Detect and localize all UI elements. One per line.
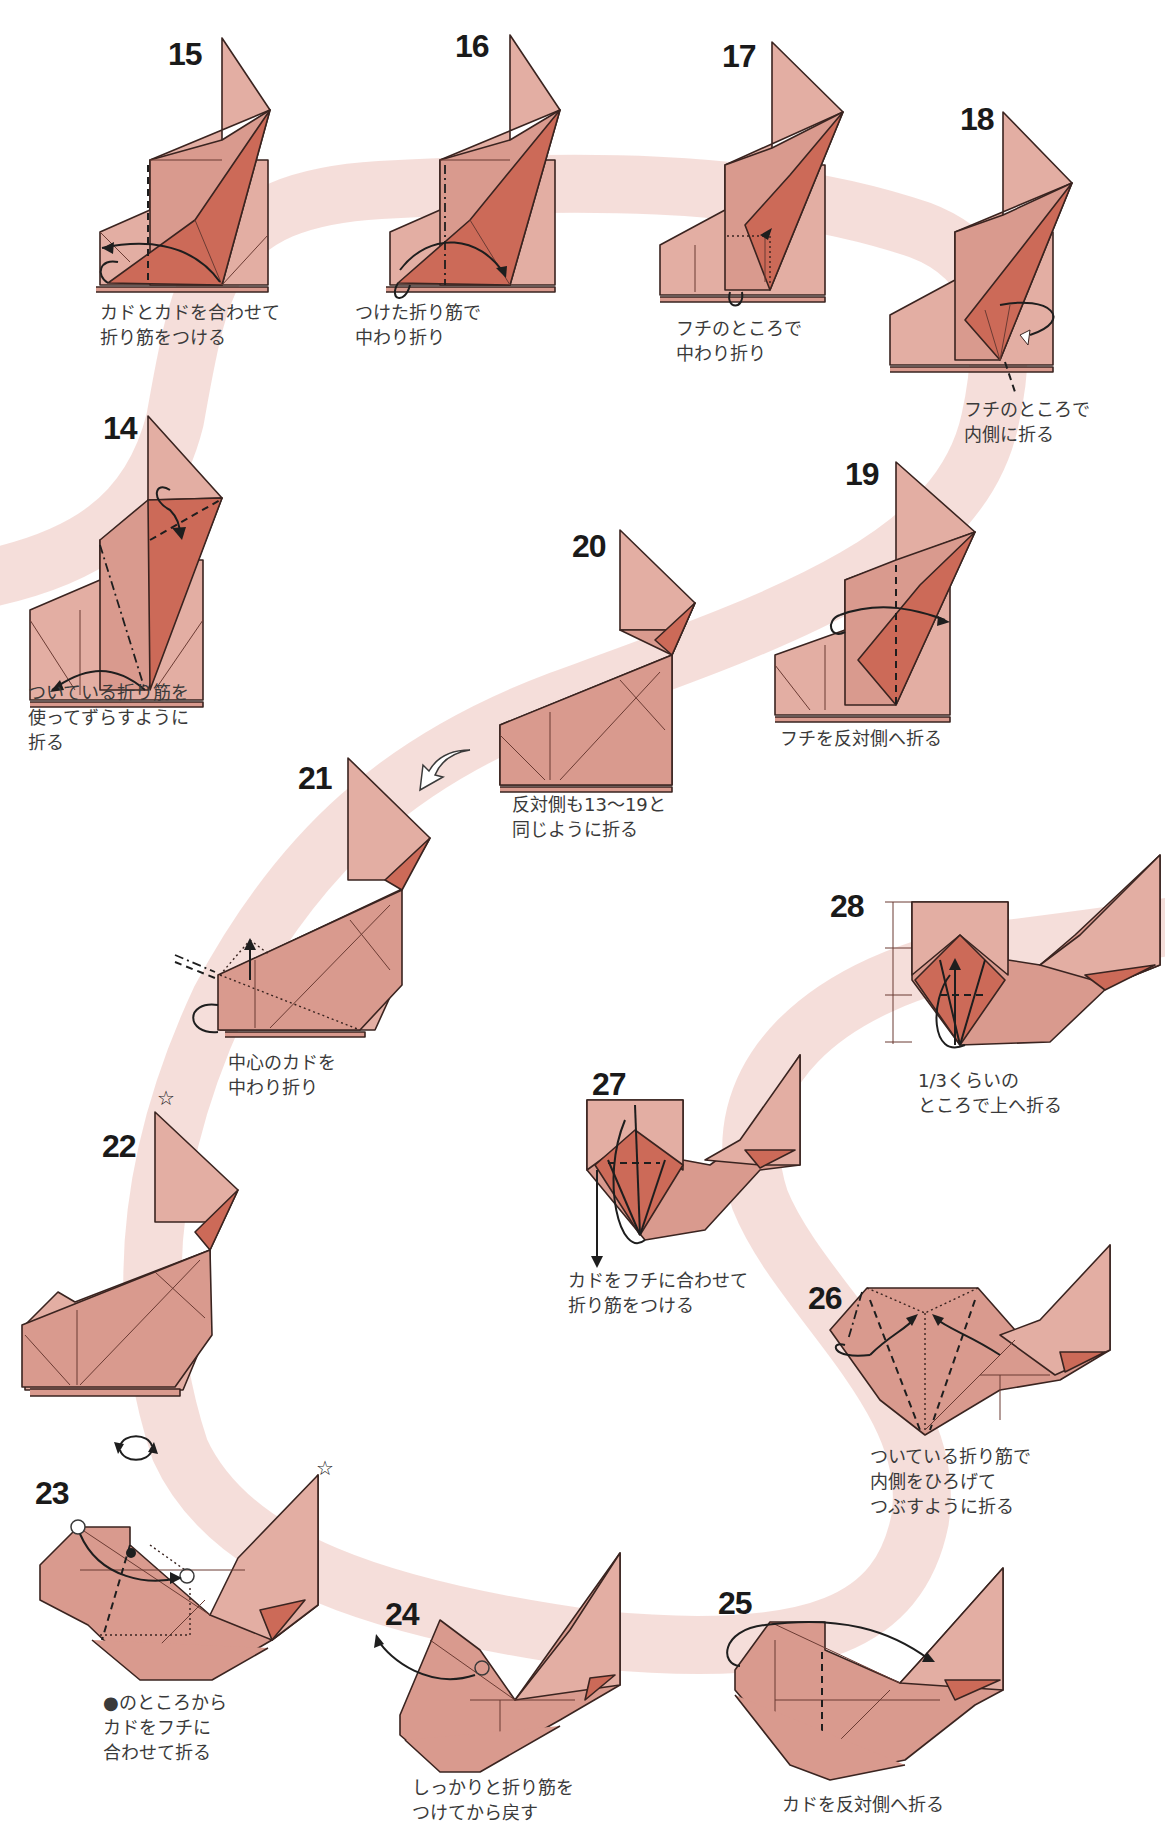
step-caption: カドをフチに合わせて 折り筋をつける: [568, 1268, 748, 1318]
step-caption: ついている折り筋で 内側をひろげて つぶすように折る: [870, 1444, 1031, 1519]
step-caption: カドを反対側へ折る: [782, 1792, 944, 1817]
fold-figure: [0, 0, 1165, 1060]
step-caption: 1/3くらいの ところで上へ折る: [918, 1068, 1062, 1118]
